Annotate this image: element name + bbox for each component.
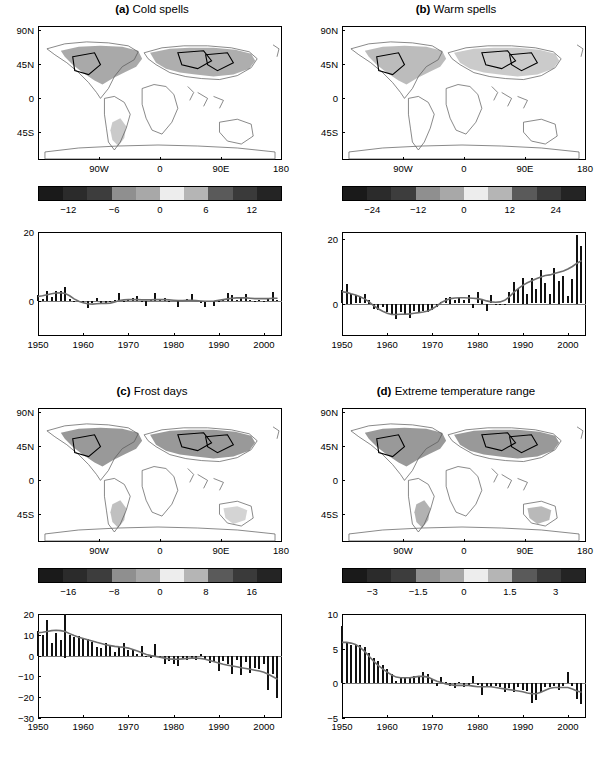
colorbar-seg-a-7 (208, 187, 232, 200)
map-ylabel-c-2: 0 (29, 475, 34, 486)
colorbar-seg-b-3 (416, 187, 440, 200)
chart-ytick-c-1: −20 (18, 692, 34, 703)
colorbar-labels-b: −24−1201224 (342, 204, 586, 218)
chart-xtick-d-4: 1990 (512, 721, 533, 732)
colorbar-tick-c-2: 0 (157, 586, 162, 597)
colorbar-tick-d-4: 3 (553, 586, 558, 597)
colorbar-seg-a-1 (63, 187, 87, 200)
chart-ytick-c-3: 0 (29, 650, 34, 661)
world-map-graphic (39, 409, 281, 542)
panel-title-a: (a) Cold spells (0, 2, 304, 16)
map-ylabel-a-2: 0 (29, 93, 34, 104)
chart-a: 020195019601970198019902000 (38, 232, 282, 336)
chart-xtick-b-4: 1990 (512, 339, 533, 350)
colorbar-seg-b-7 (512, 187, 536, 200)
colorbar-seg-c-3 (112, 569, 136, 582)
panel-title-text-b: Warm spells (434, 3, 497, 15)
map-xlabel-a-1: 0 (157, 163, 162, 174)
map-xlabel-c-1: 0 (157, 545, 162, 556)
colorbar-tick-a-0: −12 (60, 204, 76, 215)
panel-tag-c: (c) (117, 385, 131, 397)
chart-xtick-d-1: 1960 (377, 721, 398, 732)
map-ylabel-b-1: 45N (321, 59, 338, 70)
map-ylabel-d-1: 45N (321, 441, 338, 452)
colorbar-seg-d-6 (488, 569, 512, 582)
colorbar-seg-d-3 (416, 569, 440, 582)
panel-b: (b) Warm spells 90N45N045S90W090E180 −24… (304, 0, 608, 381)
chart-ytick-d-2: 5 (333, 643, 338, 654)
map-xlabel-c-0: 90W (89, 545, 109, 556)
map-ylabel-a-0: 90N (17, 25, 34, 36)
chart-xtick-c-1: 1960 (73, 721, 94, 732)
colorbar-tick-a-4: 12 (246, 204, 257, 215)
colorbar-tick-c-1: −8 (109, 586, 120, 597)
chart-xtick-a-4: 1990 (208, 339, 229, 350)
chart-xtick-b-0: 1950 (331, 339, 352, 350)
chart-smoothed-line-a (38, 232, 282, 336)
chart-xtick-a-5: 2000 (253, 339, 274, 350)
colorbar-b (342, 186, 586, 201)
map-ylabel-a-3: 45S (17, 127, 34, 138)
panel-tag-d: (d) (377, 385, 392, 397)
colorbar-a (38, 186, 282, 201)
map-ylabel-b-3: 45S (321, 127, 338, 138)
map-xlabel-a-0: 90W (89, 163, 109, 174)
chart-ytick-d-1: 0 (333, 678, 338, 689)
chart-xtick-b-1: 1960 (377, 339, 398, 350)
map-ylabel-c-1: 45N (17, 441, 34, 452)
map-ylabel-b-2: 0 (333, 93, 338, 104)
map-xlabel-a-2: 90E (213, 163, 230, 174)
chart-ytick-b-1: 20 (327, 233, 338, 244)
chart-ytick-c-4: 10 (23, 629, 34, 640)
chart-xtick-c-5: 2000 (253, 721, 274, 732)
panel-title-text-c: Frost days (134, 385, 188, 397)
colorbar-seg-a-9 (257, 187, 281, 200)
panel-d: (d) Extreme temperature range 90N45N045S… (304, 382, 608, 763)
chart-xtick-c-4: 1990 (208, 721, 229, 732)
map-ylabel-d-2: 0 (333, 475, 338, 486)
map-xlabel-c-3: 180 (273, 545, 289, 556)
chart-ytick-a-1: 20 (23, 227, 34, 238)
colorbar-seg-c-1 (63, 569, 87, 582)
colorbar-seg-c-4 (136, 569, 160, 582)
panel-tag-b: (b) (416, 3, 431, 15)
colorbar-c (38, 568, 282, 583)
chart-b: 020195019601970198019902000 (342, 232, 586, 336)
map-ylabel-b-0: 90N (321, 25, 338, 36)
colorbar-seg-b-0 (343, 187, 367, 200)
colorbar-seg-b-4 (440, 187, 464, 200)
chart-ytick-a-0: 0 (29, 296, 34, 307)
chart-smoothed-line-c (38, 614, 282, 718)
map-xlabel-d-1: 0 (461, 545, 466, 556)
chart-ytick-c-2: −10 (18, 671, 34, 682)
colorbar-labels-d: −3−1.501.53 (342, 586, 586, 600)
colorbar-seg-a-3 (112, 187, 136, 200)
colorbar-labels-a: −12−60612 (38, 204, 282, 218)
colorbar-seg-a-6 (184, 187, 208, 200)
map-xlabel-c-2: 90E (213, 545, 230, 556)
map-d: 90N45N045S90W090E180 (342, 408, 586, 542)
map-b: 90N45N045S90W090E180 (342, 26, 586, 160)
chart-smoothed-line-d (342, 614, 586, 718)
map-xlabel-b-0: 90W (393, 163, 413, 174)
chart-xtick-d-5: 2000 (557, 721, 578, 732)
chart-xtick-d-0: 1950 (331, 721, 352, 732)
map-xlabel-a-3: 180 (273, 163, 289, 174)
colorbar-seg-c-7 (208, 569, 232, 582)
colorbar-labels-c: −16−80816 (38, 586, 282, 600)
colorbar-seg-b-8 (537, 187, 561, 200)
chart-xtick-c-2: 1970 (118, 721, 139, 732)
panel-tag-a: (a) (115, 3, 129, 15)
colorbar-seg-b-9 (561, 187, 585, 200)
colorbar-tick-d-3: 1.5 (503, 586, 516, 597)
colorbar-tick-d-2: 0 (461, 586, 466, 597)
chart-xtick-a-2: 1970 (118, 339, 139, 350)
map-frame-b (342, 26, 586, 160)
chart-xtick-c-0: 1950 (27, 721, 48, 732)
chart-xtick-d-3: 1980 (467, 721, 488, 732)
panel-title-b: (b) Warm spells (304, 2, 608, 16)
map-ylabel-a-1: 45N (17, 59, 34, 70)
colorbar-tick-a-2: 0 (157, 204, 162, 215)
chart-xtick-a-0: 1950 (27, 339, 48, 350)
map-ylabel-d-0: 90N (321, 407, 338, 418)
